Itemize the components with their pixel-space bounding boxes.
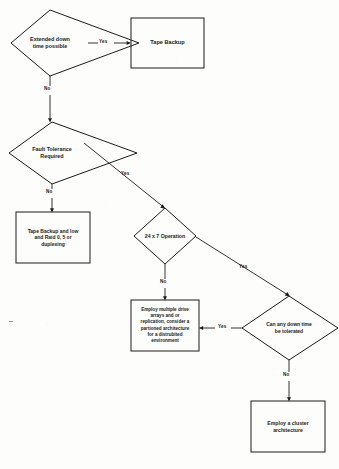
decision-fault-tolerance[interactable] [9, 122, 137, 184]
connector-247-yes [196, 237, 288, 295]
arrowhead-downtime-yes [199, 326, 203, 330]
process-cluster[interactable] [251, 401, 325, 452]
process-tape-backup[interactable] [131, 18, 204, 68]
process-tape-raid[interactable] [16, 212, 90, 263]
connectors [48, 41, 291, 402]
arrowhead-extended-yes [127, 41, 131, 45]
connector-fault-yes [84, 143, 164, 207]
decision-24x7-operation[interactable] [134, 208, 196, 264]
process-multi-drive[interactable] [131, 300, 199, 351]
flowchart-canvas: Extended down time possible Tape Backup … [0, 0, 339, 469]
decision-downtime-tolerated[interactable] [242, 296, 338, 360]
flowchart-svg [0, 0, 339, 469]
